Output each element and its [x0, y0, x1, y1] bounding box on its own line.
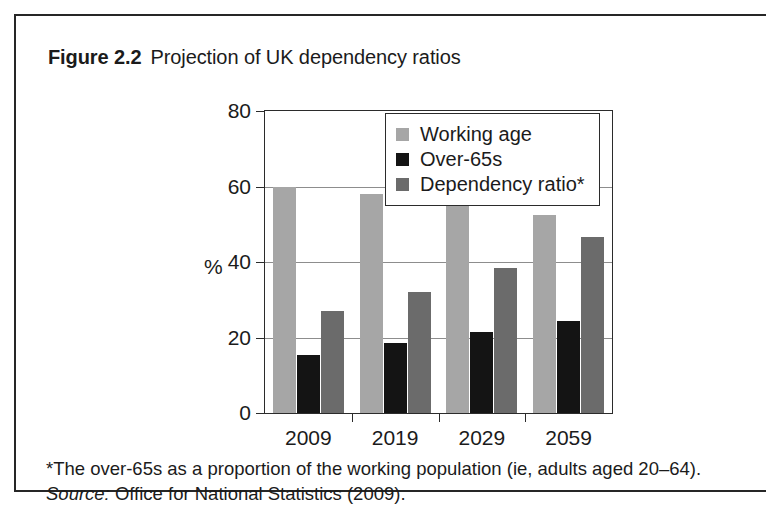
- figure-caption: Projection of UK dependency ratios: [150, 46, 460, 68]
- legend-swatch-icon: [396, 178, 409, 191]
- y-tick-0: [256, 413, 265, 414]
- y-tick-80: [256, 111, 265, 112]
- footnote-note: *The over-65s as a proportion of the wor…: [46, 456, 701, 481]
- gridline-40: [265, 262, 612, 263]
- y-tick-label-80: 80: [228, 99, 251, 123]
- x-tick-label-2029: 2029: [459, 426, 506, 450]
- y-tick-label-0: 0: [239, 401, 251, 425]
- footnote-source: Source: Office for National Statistics (…: [46, 481, 701, 506]
- source-label: Source:: [46, 483, 110, 504]
- source-value: Office for National Statistics (2009).: [115, 483, 406, 504]
- legend-item-dependency-ratio: Dependency ratio*: [396, 172, 585, 196]
- bar-2029-dependency-ratio: [494, 268, 517, 413]
- y-tick-label-20: 20: [228, 326, 251, 350]
- figure-footnote: *The over-65s as a proportion of the wor…: [46, 456, 701, 506]
- y-tick-label-60: 60: [228, 175, 251, 199]
- bar-2029-over-65s: [470, 332, 493, 413]
- y-axis-unit-label: %: [204, 255, 223, 279]
- x-tick-2: [439, 413, 440, 422]
- bar-2019-over-65s: [384, 343, 407, 413]
- legend-swatch-icon: [396, 153, 409, 166]
- y-tick-60: [256, 187, 265, 188]
- bar-2019-dependency-ratio: [408, 292, 431, 413]
- y-tick-20: [256, 338, 265, 339]
- figure-title: Figure 2.2Projection of UK dependency ra…: [48, 46, 461, 69]
- figure-number: Figure 2.2: [48, 46, 141, 68]
- legend-label: Working age: [420, 122, 532, 146]
- legend-swatch-icon: [396, 128, 409, 141]
- bar-2059-dependency-ratio: [581, 237, 604, 413]
- chart-legend: Working ageOver-65sDependency ratio*: [385, 113, 600, 206]
- x-tick-label-2059: 2059: [545, 426, 592, 450]
- x-tick-label-2019: 2019: [372, 426, 419, 450]
- bar-2059-over-65s: [557, 321, 580, 413]
- x-tick-label-2009: 2009: [285, 426, 332, 450]
- legend-label: Dependency ratio*: [420, 172, 585, 196]
- x-tick-3: [525, 413, 526, 422]
- legend-item-working-age: Working age: [396, 122, 585, 146]
- y-tick-40: [256, 262, 265, 263]
- bar-2009-over-65s: [297, 355, 320, 414]
- legend-item-over-65s: Over-65s: [396, 147, 585, 171]
- legend-label: Over-65s: [420, 147, 502, 171]
- figure-frame: Figure 2.2Projection of UK dependency ra…: [14, 14, 766, 492]
- bar-2029-working-age: [446, 204, 469, 414]
- x-tick-1: [352, 413, 353, 422]
- bar-2059-working-age: [533, 215, 556, 413]
- bar-2019-working-age: [360, 194, 383, 413]
- y-tick-label-40: 40: [228, 250, 251, 274]
- bar-2009-dependency-ratio: [321, 311, 344, 413]
- bar-2009-working-age: [273, 187, 296, 414]
